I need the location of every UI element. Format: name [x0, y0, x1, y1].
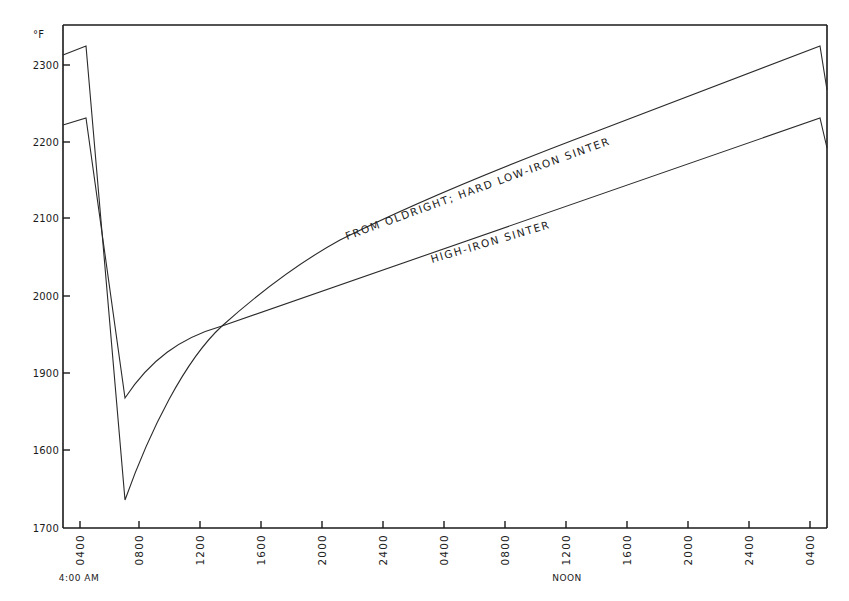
- x-annotation-start-time: 4:00 AM: [59, 573, 100, 583]
- plot-frame: [63, 25, 827, 528]
- chart-canvas: °F 2300 2200 2100 2000 1900 1600 1700 04…: [0, 0, 849, 601]
- x-tick-label: 1600: [621, 534, 633, 566]
- x-tick-label: 2000: [316, 534, 328, 566]
- y-tick-label: 2100: [33, 213, 59, 224]
- y-unit-label: °F: [33, 29, 44, 40]
- x-tick-label: 0400: [438, 534, 450, 566]
- y-tick-label: 1900: [33, 368, 59, 379]
- x-tick-label: 2400: [377, 534, 389, 566]
- x-tick-label: 1600: [255, 534, 267, 566]
- curve-label-high-iron-sinter: HIGH-IRON SINTER: [429, 218, 552, 265]
- y-tick-label: 2300: [33, 60, 59, 71]
- curve-low-iron-sinter: [63, 46, 827, 500]
- y-tick-label: 2000: [33, 291, 59, 302]
- y-tick-label: 2200: [33, 137, 59, 148]
- y-tick-label: 1600: [33, 445, 59, 456]
- y-tick-label: 1700: [33, 523, 59, 534]
- x-tick-label: 2000: [682, 534, 694, 566]
- x-tick-label: 0800: [133, 534, 145, 566]
- curve-label-low-iron-sinter: FROM OLDRIGHT; HARD LOW-IRON SINTER: [344, 134, 612, 241]
- y-axis: 2300 2200 2100 2000 1900 1600 1700: [33, 60, 70, 534]
- x-tick-label: 0800: [499, 534, 511, 566]
- x-tick-label: 1200: [194, 534, 206, 566]
- x-tick-label: 1200: [560, 534, 572, 566]
- x-tick-label: 0400: [804, 534, 816, 566]
- x-annotation-noon: NOON: [552, 573, 582, 583]
- x-tick-label: 2400: [743, 534, 755, 566]
- x-tick-label: 0400: [74, 534, 86, 566]
- x-axis: 0400 0800 1200 1600 2000 2400 0400 0800 …: [59, 521, 816, 583]
